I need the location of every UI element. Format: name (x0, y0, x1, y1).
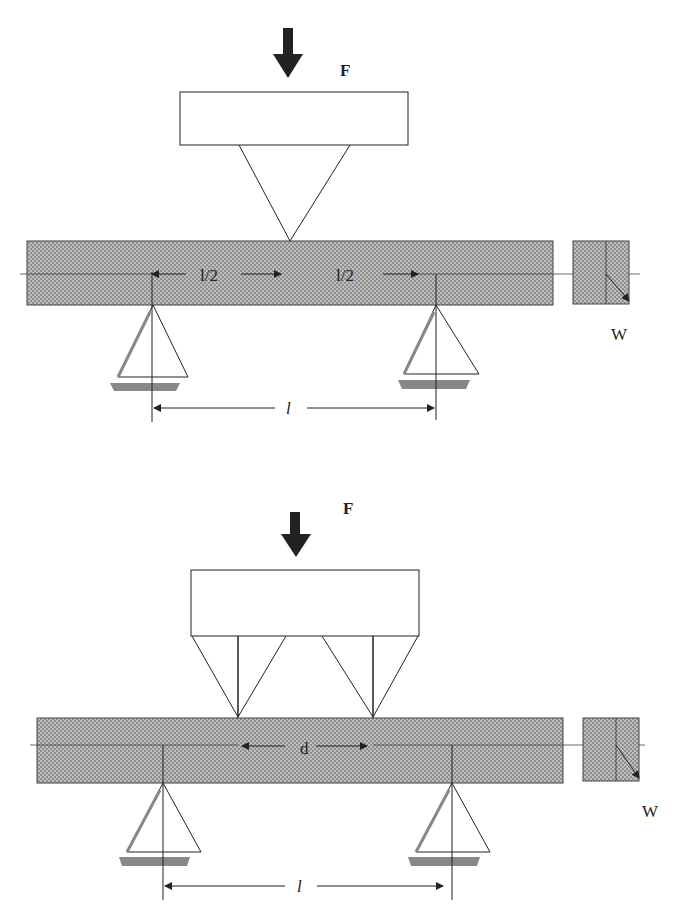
loading-block (180, 92, 408, 145)
half-span-label-right: l/2 (336, 266, 354, 285)
force-label: F (340, 61, 350, 80)
cross-section (583, 718, 639, 781)
cross-section (573, 241, 629, 304)
width-label: W (611, 325, 628, 344)
force-label: F (343, 499, 353, 518)
force-arrow-icon (281, 512, 311, 557)
loading-block (191, 570, 419, 636)
specimen-beam (27, 241, 553, 305)
four-point-diagram: F d l (30, 499, 659, 900)
half-span-label-left: l/2 (200, 266, 218, 285)
width-label: W (642, 802, 659, 821)
force-arrow-icon (273, 28, 303, 78)
loading-nose (239, 145, 350, 241)
loading-nose-right (322, 636, 418, 717)
inner-span-label: d (300, 739, 309, 758)
span-label: l (286, 399, 291, 418)
bending-test-diagrams: F l/2 l/2 l (0, 0, 682, 921)
loading-nose-left (192, 636, 286, 717)
three-point-diagram: F l/2 l/2 l (20, 28, 640, 422)
span-label: l (297, 877, 302, 896)
